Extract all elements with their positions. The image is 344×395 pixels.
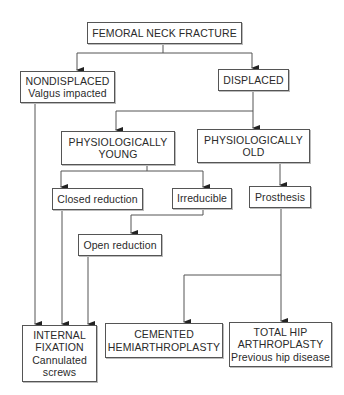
node-label: Prosthesis (255, 191, 305, 204)
node-label: Irreducible (177, 192, 227, 205)
node-label: YOUNG (98, 148, 137, 161)
node-sublabel: Cannulated (32, 354, 87, 367)
node-label: OLD (243, 146, 265, 159)
node-label: Closed reduction (57, 193, 137, 206)
node-femoral-neck-fracture: FEMORAL NECK FRACTURE (87, 22, 242, 44)
node-label: FIXATION (35, 341, 83, 354)
node-label: PHYSIOLOGICALLY (204, 134, 303, 147)
node-nondisplaced: NONDISPLACED Valgus impacted (20, 71, 115, 103)
node-label: CEMENTED (134, 328, 194, 341)
node-label: FEMORAL NECK FRACTURE (92, 27, 237, 40)
node-physiologically-old: PHYSIOLOGICALLY OLD (197, 129, 310, 163)
node-open-reduction: Open reduction (78, 234, 162, 256)
node-label: PHYSIOLOGICALLY (69, 136, 168, 149)
node-sublabel: Previous hip disease (231, 351, 330, 364)
node-label: INTERNAL (33, 329, 86, 342)
node-label: HEMIARTHROPLASTY (108, 341, 220, 354)
node-label: TOTAL HIP (254, 326, 308, 339)
node-total-hip-arthroplasty: TOTAL HIP ARTHROPLASTY Previous hip dise… (229, 322, 332, 367)
node-displaced: DISPLACED (218, 69, 289, 91)
node-internal-fixation: INTERNAL FIXATION Cannulated screws (22, 325, 97, 382)
flowchart: FEMORAL NECK FRACTURE NONDISPLACED Valgu… (0, 0, 344, 395)
node-sublabel: screws (43, 366, 76, 379)
node-physiologically-young: PHYSIOLOGICALLY YOUNG (61, 131, 175, 165)
node-label: ARTHROPLASTY (238, 338, 324, 351)
node-irreducible: Irreducible (172, 188, 232, 209)
node-cemented-hemiarthroplasty: CEMENTED HEMIARTHROPLASTY (105, 323, 223, 358)
node-closed-reduction: Closed reduction (52, 188, 143, 210)
node-label: NONDISPLACED (25, 75, 109, 88)
node-label: DISPLACED (223, 74, 283, 87)
node-prosthesis: Prosthesis (249, 186, 311, 208)
node-label: Open reduction (83, 239, 156, 252)
node-sublabel: Valgus impacted (28, 87, 106, 100)
